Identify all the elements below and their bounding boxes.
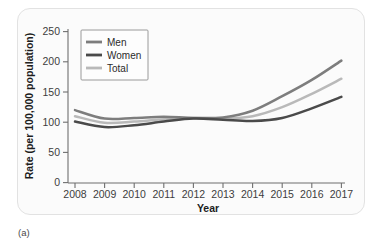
x-tick-label: 2016: [300, 188, 324, 200]
y-tick-label: 50: [48, 146, 60, 158]
x-axis-tick-labels: 2008 2009 2010 2011 2012 2013 2014 2015 …: [63, 188, 353, 200]
y-axis-tick-labels: 0 50 100 150 200 250: [42, 25, 60, 188]
line-chart: 0 50 100 150 200 250 2008 2009 2010 2011: [0, 0, 378, 249]
legend-label-men: Men: [107, 37, 126, 48]
legend-label-women: Women: [107, 50, 141, 61]
y-tick-label: 0: [54, 176, 60, 188]
legend-label-total: Total: [107, 63, 128, 74]
x-tick-label: 2017: [330, 188, 354, 200]
x-tick-label: 2013: [211, 188, 235, 200]
y-axis-title: Rate (per 100,000 population): [23, 33, 35, 179]
figure-caption: (a): [18, 227, 30, 238]
x-axis-title: Year: [197, 202, 219, 214]
x-tick-label: 2010: [123, 188, 147, 200]
x-tick-label: 2011: [153, 188, 176, 200]
x-tick-label: 2015: [271, 188, 295, 200]
x-tick-label: 2014: [241, 188, 265, 200]
chart-legend: Men Women Total: [81, 30, 148, 80]
x-tick-label: 2012: [182, 188, 206, 200]
y-tick-label: 150: [42, 86, 60, 98]
y-tick-label: 200: [42, 55, 60, 67]
figure-container: 0 50 100 150 200 250 2008 2009 2010 2011: [0, 0, 378, 249]
y-axis-ticks: [63, 32, 68, 183]
x-tick-label: 2008: [63, 188, 87, 200]
y-tick-label: 250: [42, 25, 60, 37]
y-tick-label: 100: [42, 116, 60, 128]
x-tick-label: 2009: [93, 188, 117, 200]
